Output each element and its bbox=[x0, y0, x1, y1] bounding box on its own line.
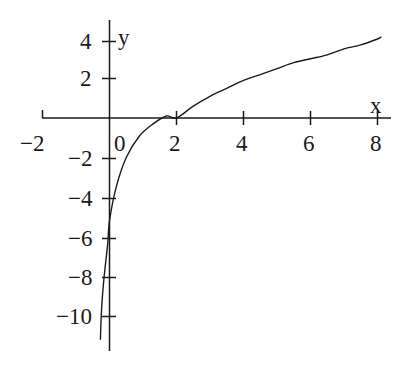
x-tick-label--2: −2 bbox=[20, 132, 44, 155]
y-tick-label--10: −10 bbox=[56, 305, 92, 328]
y-tick-label-4: 4 bbox=[80, 30, 92, 53]
x-tick-label-4: 4 bbox=[236, 132, 248, 155]
x-tick-label-2: 2 bbox=[169, 132, 181, 155]
x-tick-label-0: 0 bbox=[114, 132, 126, 155]
y-tick-label--4: −4 bbox=[68, 187, 92, 210]
chart-figure: −2 0 2 4 6 8 4 2 −2 −4 −6 −8 −10 y x bbox=[0, 0, 406, 372]
x-tick-label-6: 6 bbox=[303, 132, 315, 155]
y-tick-label--8: −8 bbox=[68, 266, 92, 289]
y-tick-label-2: 2 bbox=[80, 67, 92, 90]
data-series-curve bbox=[100, 37, 380, 339]
y-axis-label: y bbox=[118, 26, 130, 49]
x-axis-label: x bbox=[370, 94, 382, 117]
x-tick-label-8: 8 bbox=[370, 132, 382, 155]
y-tick-label--2: −2 bbox=[68, 147, 92, 170]
y-tick-label--6: −6 bbox=[68, 227, 92, 250]
